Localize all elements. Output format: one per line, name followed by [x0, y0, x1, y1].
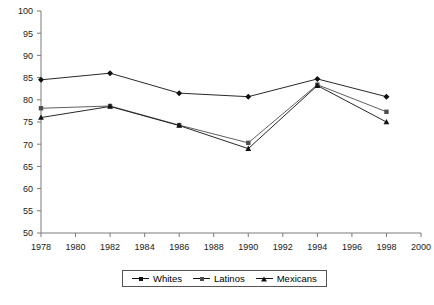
series-line-whites — [41, 73, 386, 97]
x-tick-label: 2000 — [411, 242, 431, 252]
chart-axes: 5055606570758085909510019781980198219841… — [18, 6, 431, 252]
y-tick-label: 100 — [18, 6, 33, 16]
x-tick-label: 1980 — [66, 242, 86, 252]
triangle-marker-icon — [256, 274, 273, 283]
y-tick-label: 65 — [23, 162, 33, 172]
y-tick-label: 50 — [23, 228, 33, 238]
y-tick-label: 85 — [23, 73, 33, 83]
x-tick-label: 1984 — [135, 242, 155, 252]
series-latinos — [39, 83, 389, 146]
x-tick-label: 1998 — [376, 242, 396, 252]
y-tick-label: 55 — [23, 206, 33, 216]
data-point-marker — [384, 119, 390, 124]
data-point-marker — [246, 141, 250, 145]
series-mexicans — [38, 82, 389, 150]
x-tick-label: 1992 — [273, 242, 293, 252]
y-tick-label: 60 — [23, 184, 33, 194]
data-point-marker — [384, 110, 388, 114]
legend-entry-mexicans: Mexicans — [256, 274, 317, 284]
series-whites — [38, 70, 389, 100]
diamond-marker-icon — [132, 274, 149, 283]
square-marker-icon — [193, 274, 210, 283]
data-point-marker — [245, 94, 251, 100]
data-point-marker — [107, 70, 113, 76]
chart-legend: Whites Latinos Mexicans — [122, 270, 327, 287]
data-point-marker — [383, 94, 389, 100]
x-tick-label: 1982 — [100, 242, 120, 252]
data-point-marker — [176, 90, 182, 96]
legend-label-whites: Whites — [153, 274, 182, 284]
x-tick-label: 1978 — [31, 242, 51, 252]
data-point-marker — [314, 76, 320, 82]
y-tick-label: 70 — [23, 140, 33, 150]
line-chart: 5055606570758085909510019781980198219841… — [0, 0, 434, 305]
y-tick-label: 95 — [23, 29, 33, 39]
chart-canvas: 5055606570758085909510019781980198219841… — [0, 0, 434, 305]
x-tick-label: 1986 — [169, 242, 189, 252]
y-tick-label: 80 — [23, 95, 33, 105]
series-line-latinos — [41, 85, 386, 143]
x-tick-label: 1994 — [307, 242, 327, 252]
data-point-marker — [39, 106, 43, 110]
legend-label-mexicans: Mexicans — [277, 274, 317, 284]
chart-series — [38, 70, 389, 151]
legend-entry-whites: Whites — [132, 274, 182, 284]
y-tick-label: 90 — [23, 51, 33, 61]
x-tick-label: 1988 — [204, 242, 224, 252]
legend-entry-latinos: Latinos — [193, 274, 245, 284]
legend-label-latinos: Latinos — [214, 274, 245, 284]
x-tick-label: 1990 — [238, 242, 258, 252]
x-tick-label: 1996 — [342, 242, 362, 252]
y-tick-label: 75 — [23, 117, 33, 127]
